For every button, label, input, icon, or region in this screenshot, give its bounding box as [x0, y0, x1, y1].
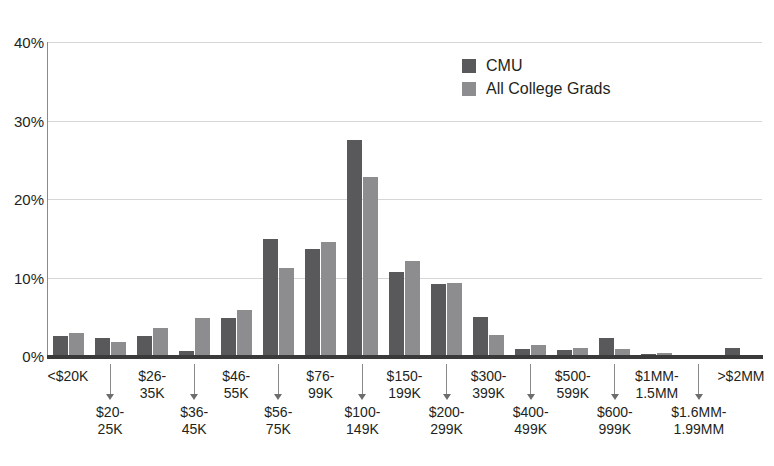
bar-all-college-grads [279, 268, 294, 356]
x-axis-labels: <$20K$20- 25K$26- 35K$36- 45K$46- 55K$56… [0, 360, 774, 466]
x-axis-baseline [47, 355, 763, 359]
x-axis-tick-label: $300- 399K [447, 368, 531, 402]
bars-layer [47, 42, 762, 356]
bar-all-college-grads [405, 261, 420, 356]
bar-cmu [389, 272, 404, 356]
bar-chart: 0%10%20%30%40% CMU All College Grads <$2… [0, 0, 774, 466]
legend-item-cmu: CMU [462, 54, 611, 77]
x-axis-tick-label: $76- 99K [278, 368, 362, 402]
bar-cmu [95, 338, 110, 356]
legend-swatch-icon [462, 82, 476, 96]
x-axis-tick-label: $1MM- 1.5MM [615, 368, 699, 402]
bar-group [347, 42, 378, 356]
bar-group [305, 42, 336, 356]
bar-group [137, 42, 168, 356]
bar-group [263, 42, 294, 356]
x-axis-tick-label: $20- 25K [68, 404, 152, 438]
bar-all-college-grads [237, 310, 252, 356]
bar-group [389, 42, 420, 356]
y-axis-tick-label: 30% [0, 112, 44, 129]
bar-group [179, 42, 210, 356]
bar-group [431, 42, 462, 356]
bar-cmu [599, 338, 614, 356]
bar-group [95, 42, 126, 356]
bar-cmu [221, 318, 236, 356]
bar-group [221, 42, 252, 356]
bar-cmu [347, 140, 362, 356]
legend-label: All College Grads [486, 80, 611, 98]
bar-all-college-grads [153, 328, 168, 356]
x-axis-tick-label: $56- 75K [236, 404, 320, 438]
bar-all-college-grads [321, 242, 336, 356]
bar-all-college-grads [111, 342, 126, 356]
legend-label: CMU [486, 57, 522, 75]
bar-cmu [263, 239, 278, 356]
bar-cmu [305, 249, 320, 356]
legend-item-all-college-grads: All College Grads [462, 77, 611, 100]
bar-cmu [53, 336, 68, 356]
x-axis-tick-label: <$20K [26, 368, 110, 385]
legend: CMU All College Grads [462, 54, 611, 100]
x-axis-tick-label: $26- 35K [110, 368, 194, 402]
x-axis-tick-label: $100- 149K [320, 404, 404, 438]
bar-group [53, 42, 84, 356]
y-axis-tick-label: 20% [0, 191, 44, 208]
x-axis-tick-label: $500- 599K [531, 368, 615, 402]
bar-cmu [431, 284, 446, 356]
x-axis-tick-label: $150- 199K [363, 368, 447, 402]
x-axis-tick-label: >$2MM [699, 368, 774, 385]
bar-all-college-grads [69, 333, 84, 356]
bar-group [725, 42, 756, 356]
y-axis-tick-label: 10% [0, 269, 44, 286]
x-axis-tick-label: $1.6MM- 1.99MM [657, 404, 741, 438]
x-axis-tick-label: $600- 999K [573, 404, 657, 438]
x-axis-tick-label: $46- 55K [194, 368, 278, 402]
legend-swatch-icon [462, 59, 476, 73]
x-axis-tick-label: $36- 45K [152, 404, 236, 438]
bar-cmu [137, 336, 152, 356]
y-axis-tick-label: 40% [0, 34, 44, 51]
x-axis-tick-label: $400- 499K [489, 404, 573, 438]
bar-all-college-grads [447, 283, 462, 356]
bar-cmu [473, 317, 488, 356]
bar-all-college-grads [195, 318, 210, 356]
bar-group [683, 42, 714, 356]
bar-all-college-grads [363, 177, 378, 356]
bar-group [641, 42, 672, 356]
x-axis-tick-label: $200- 299K [405, 404, 489, 438]
bar-all-college-grads [489, 335, 504, 356]
